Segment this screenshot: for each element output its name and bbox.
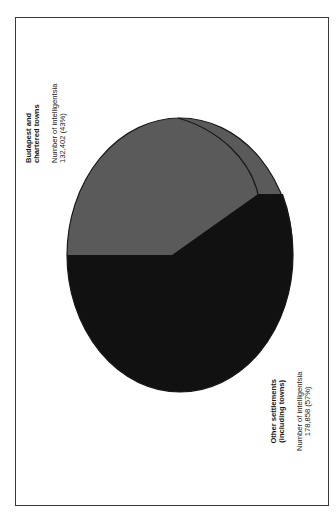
- label-other-title: Other settlements (including towns): [270, 372, 287, 451]
- label-other-title-line2: (including towns): [278, 372, 286, 451]
- label-budapest-title-line2: chartered towns: [33, 84, 41, 163]
- label-budapest-count-value: 132,402 (43%): [59, 84, 68, 163]
- label-other-sub: Number of intelligentsia 178,858 (57%): [296, 372, 313, 451]
- label-budapest-title: Budapest and chartered towns: [25, 84, 42, 163]
- label-budapest-sub: Number of intelligentsia 132,402 (43%): [51, 84, 68, 163]
- label-budapest: Budapest and chartered towns Number of i…: [25, 84, 68, 163]
- label-other: Other settlements (including towns) Numb…: [270, 372, 313, 451]
- label-other-count-value: 178,858 (57%): [304, 372, 313, 451]
